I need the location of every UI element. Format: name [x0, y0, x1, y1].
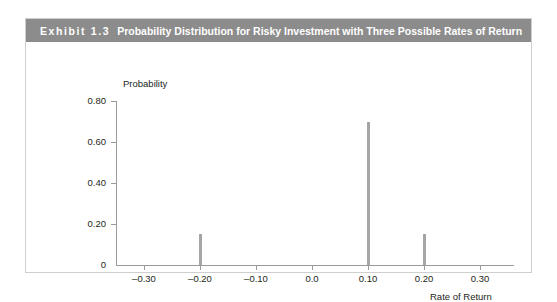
exhibit-title: Probability Distribution for Risky Inves…: [117, 25, 522, 37]
exhibit-panel: Exhibit 1.3 Probability Distribution for…: [25, 18, 532, 273]
x-tick-label: –0.30: [114, 273, 174, 284]
x-tick-label: 0.10: [338, 273, 398, 284]
x-tick-mark: [368, 265, 369, 270]
y-tick-label: 0.80: [60, 95, 106, 106]
bar-rate-0.10: [367, 122, 370, 266]
y-tick-label: 0.20: [60, 218, 106, 229]
x-tick-mark: [144, 265, 145, 270]
bar-rate-0.20: [423, 234, 426, 265]
x-tick-label: –0.10: [226, 273, 286, 284]
bar-rate--0.20: [199, 234, 202, 265]
y-tick-mark: [111, 224, 117, 225]
y-tick-mark: [111, 101, 117, 102]
chart-plot-area: Probability Rate of Return 0.80 0.60 0.4…: [26, 42, 533, 273]
x-tick-mark: [424, 265, 425, 270]
x-tick-mark: [480, 265, 481, 270]
x-tick-label: –0.20: [170, 273, 230, 284]
x-tick-mark: [312, 265, 313, 270]
x-tick-label: 0.30: [450, 273, 510, 284]
exhibit-header-text: Exhibit 1.3 Probability Distribution for…: [26, 25, 522, 37]
y-tick-mark: [111, 183, 117, 184]
x-tick-mark: [256, 265, 257, 270]
exhibit-number: Exhibit 1.3: [40, 25, 110, 37]
y-tick-label: 0.60: [60, 136, 106, 147]
x-axis-label: Rate of Return: [430, 291, 492, 302]
exhibit-header: Exhibit 1.3 Probability Distribution for…: [26, 19, 531, 42]
y-axis-label: Probability: [123, 78, 167, 89]
x-tick-mark: [200, 265, 201, 270]
x-tick-label: 0.20: [394, 273, 454, 284]
y-tick-label: 0.40: [60, 177, 106, 188]
y-tick-mark: [111, 142, 117, 143]
y-tick-label: 0: [60, 259, 106, 270]
x-axis-line: [116, 265, 514, 266]
x-tick-label: 0.0: [282, 273, 342, 284]
